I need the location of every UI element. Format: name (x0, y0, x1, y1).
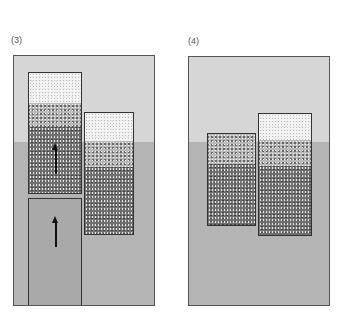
mixed-region (208, 134, 255, 164)
panel-4-label: (4) (188, 36, 199, 46)
mixed-region (85, 141, 133, 167)
panel-4 (188, 56, 330, 306)
left-cylinder (28, 72, 82, 194)
dense-region (259, 166, 311, 235)
panel-3-label: (3) (11, 35, 22, 45)
air-region (29, 73, 81, 103)
air-region (259, 114, 311, 140)
panel-3 (13, 55, 155, 306)
air-region (85, 113, 133, 141)
right-cylinder (84, 112, 134, 235)
up-arrow-icon (55, 221, 57, 247)
piston (28, 198, 82, 306)
up-arrow-icon (55, 148, 57, 174)
dense-region (208, 164, 255, 225)
left-cylinder (207, 133, 256, 226)
right-cylinder (258, 113, 312, 236)
mixed-region (259, 140, 311, 166)
dense-region (85, 167, 133, 234)
mixed-region (29, 103, 81, 127)
